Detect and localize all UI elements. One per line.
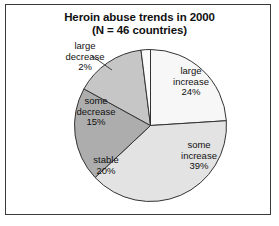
slice-label-large-increase: large increase 24% [155, 66, 227, 98]
slice-label-large-decrease: large decrease 2% [48, 41, 122, 73]
slice-label-line1: some [62, 96, 130, 107]
slice-label-value: 2% [48, 62, 122, 73]
slice-label-value: 15% [62, 117, 130, 128]
slice-label-line1: large [155, 66, 227, 77]
slice-label-some-decrease: some decrease 15% [62, 96, 130, 128]
slice-label-line1: large [48, 41, 122, 52]
page-bottom-margin [0, 219, 279, 226]
slice-label-value: 20% [74, 166, 138, 177]
slice-label-stable: stable 20% [74, 155, 138, 176]
pie-svg [0, 0, 279, 226]
slice-label-value: 39% [163, 161, 235, 172]
slice-label-some-increase: some increase 39% [163, 140, 235, 172]
slice-label-line1: stable [74, 155, 138, 166]
pie-plot-area [0, 0, 279, 226]
slice-label-value: 24% [155, 87, 227, 98]
pie-chart-figure: Heroin abuse trends in 2000 (N = 46 coun… [0, 0, 279, 226]
slice-label-line1: some [163, 140, 235, 151]
